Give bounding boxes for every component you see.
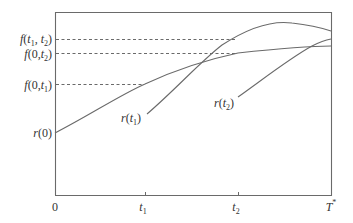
curve-f-0-t <box>55 46 331 133</box>
curve-r-t2 <box>238 39 331 97</box>
curve-r-t1 <box>147 22 331 114</box>
label-f-0-t2: f(0,t2) <box>24 47 52 63</box>
label-f-0-t1: f(0,t1) <box>24 78 52 94</box>
label-t1: t1 <box>139 200 146 216</box>
label-r-t2: r(t2) <box>214 96 234 112</box>
label-r-0: r(0) <box>33 126 52 140</box>
reference-lines <box>56 40 237 85</box>
forward-rate-diagram: f(t1, t2) f(0,t2) f(0,t1) r(0) 0 t1 t2 T… <box>0 0 353 223</box>
label-r-t1: r(t1) <box>121 111 141 127</box>
label-f-t1-t2: f(t1, t2) <box>20 32 52 48</box>
label-T-star: T* <box>326 198 337 214</box>
label-t2: t2 <box>232 200 239 216</box>
label-origin: 0 <box>52 200 58 214</box>
